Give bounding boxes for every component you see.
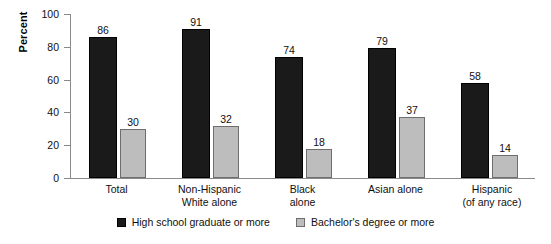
chart-legend: High school graduate or more Bachelor's … (0, 216, 551, 229)
category-label-black-line2: alone (256, 196, 349, 209)
bar-asian-alone-high-school[interactable]: 79 (368, 48, 396, 178)
category-label-asian-alone: Asian alone (349, 183, 442, 196)
bar-value-total-bachelor: 30 (127, 116, 139, 128)
y-tick-label-40: 40 (1, 107, 59, 118)
y-tick-0 (64, 178, 70, 179)
bar-group-total: 86 30 (70, 14, 163, 178)
category-label-total: Total (70, 183, 163, 196)
bar-group-black-alone: 74 18 (256, 14, 349, 178)
legend-item-high-school[interactable]: High school graduate or more (117, 216, 270, 229)
bar-value-asian-bachelor: 37 (406, 104, 418, 116)
y-tick-label-100: 100 (1, 9, 59, 20)
bar-value-total-high-school: 86 (97, 24, 109, 36)
bar-asian-alone-bachelor[interactable]: 37 (399, 117, 425, 178)
bar-value-hispanic-bachelor: 14 (499, 142, 511, 154)
bar-non-hispanic-white-alone-high-school[interactable]: 91 (182, 29, 210, 178)
category-label-black-alone: Black alone (256, 183, 349, 208)
y-tick-label-60: 60 (1, 75, 59, 86)
category-label-hispanic: Hispanic (of any race) (442, 183, 542, 208)
bar-value-asian-high-school: 79 (376, 35, 388, 47)
category-label-hispanic-line2: (of any race) (442, 196, 542, 209)
legend-swatch-dark-icon (117, 218, 126, 227)
bar-total-high-school[interactable]: 86 (89, 37, 117, 178)
plot-area: 86 30 91 32 74 18 79 (70, 14, 535, 178)
category-label-nhw-line2: White alone (163, 196, 256, 209)
category-label-hispanic-line1: Hispanic (442, 183, 542, 196)
bar-value-nhw-bachelor: 32 (220, 113, 232, 125)
legend-item-bachelor[interactable]: Bachelor's degree or more (296, 216, 434, 229)
bar-black-alone-bachelor[interactable]: 18 (306, 149, 332, 179)
bar-non-hispanic-white-alone-bachelor[interactable]: 32 (213, 126, 239, 179)
category-label-asian-line1: Asian alone (349, 183, 442, 196)
bar-group-hispanic: 58 14 (442, 14, 535, 178)
bar-hispanic-bachelor[interactable]: 14 (492, 155, 518, 178)
bar-hispanic-high-school[interactable]: 58 (461, 83, 489, 178)
category-label-nhw-line1: Non-Hispanic (163, 183, 256, 196)
bar-chart-figure: Percent 100 80 60 40 20 0 86 30 (0, 0, 551, 244)
bar-value-black-bachelor: 18 (313, 136, 325, 148)
category-label-total-line1: Total (70, 183, 163, 196)
x-axis-line (70, 178, 535, 179)
legend-label-bachelor: Bachelor's degree or more (311, 216, 434, 229)
bar-black-alone-high-school[interactable]: 74 (275, 57, 303, 178)
bar-group-non-hispanic-white-alone: 91 32 (163, 14, 256, 178)
y-tick-label-80: 80 (1, 42, 59, 53)
y-tick-label-20: 20 (1, 140, 59, 151)
y-tick-label-0: 0 (1, 173, 59, 184)
bar-value-hispanic-high-school: 58 (469, 70, 481, 82)
category-label-black-line1: Black (256, 183, 349, 196)
legend-swatch-light-icon (296, 218, 305, 227)
bar-value-nhw-high-school: 91 (190, 16, 202, 28)
category-label-non-hispanic-white-alone: Non-Hispanic White alone (163, 183, 256, 208)
legend-label-high-school: High school graduate or more (132, 216, 270, 229)
bar-total-bachelor[interactable]: 30 (120, 129, 146, 178)
bar-value-black-high-school: 74 (283, 44, 295, 56)
bar-group-asian-alone: 79 37 (349, 14, 442, 178)
